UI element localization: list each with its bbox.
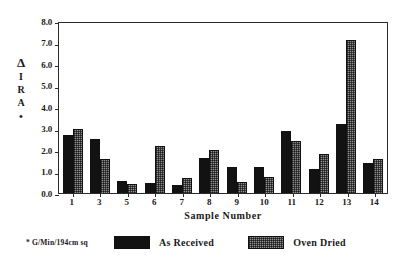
y-axis-tick-mark xyxy=(55,109,59,110)
y-axis-tick-mark xyxy=(55,88,59,89)
bar-as-received xyxy=(309,169,319,193)
bar-group xyxy=(360,23,387,193)
x-axis-tick-label: 12 xyxy=(306,197,334,209)
bar-oven-dried xyxy=(264,177,274,193)
x-axis-tick-label: 11 xyxy=(278,197,306,209)
y-axis-tick-label: 2.0 xyxy=(41,147,52,156)
bar-as-received xyxy=(199,158,209,193)
plot-area xyxy=(58,22,388,194)
y-axis-tick-labels: 8.07.06.05.04.03.02.01.00.0 xyxy=(26,0,52,265)
y-axis-title-char-i: I xyxy=(19,70,23,83)
y-axis-tick-mark xyxy=(55,131,59,132)
bar-as-received xyxy=(363,163,373,193)
bar-oven-dried xyxy=(346,40,356,193)
bar-oven-dried xyxy=(100,159,110,193)
bar-oven-dried xyxy=(237,182,247,193)
x-axis-tick-label: 9 xyxy=(223,197,251,209)
x-axis-tick-label: 13 xyxy=(333,197,361,209)
x-axis-tick-label: 3 xyxy=(86,197,114,209)
bar-group xyxy=(59,23,86,193)
y-axis-tick-label: 5.0 xyxy=(41,82,52,91)
y-axis-tick-mark xyxy=(55,23,59,24)
x-axis-tick-label: 10 xyxy=(251,197,279,209)
bar-oven-dried xyxy=(291,141,301,193)
y-axis-title-char-r: R xyxy=(17,83,24,96)
bar-as-received xyxy=(172,185,182,193)
y-axis-title-char-asterisk: • xyxy=(19,109,23,123)
x-axis-tick-label: 8 xyxy=(196,197,224,209)
x-axis-tick-label: 1 xyxy=(58,197,86,209)
bar-as-received xyxy=(336,124,346,193)
x-axis-tick-label: 6 xyxy=(141,197,169,209)
bar-oven-dried xyxy=(182,178,192,193)
bar-group xyxy=(332,23,359,193)
bar-oven-dried xyxy=(73,129,83,194)
bar-groups xyxy=(59,23,387,193)
x-axis-title: Sample Number xyxy=(58,210,388,221)
bar-oven-dried xyxy=(319,154,329,193)
x-axis-tick-label: 7 xyxy=(168,197,196,209)
bar-as-received xyxy=(281,131,291,193)
legend-footnote: * G/Min/194cm sq xyxy=(26,238,88,247)
bar-as-received xyxy=(227,167,237,193)
y-axis-tick-label: 6.0 xyxy=(41,61,52,70)
bar-group xyxy=(114,23,141,193)
bar-group xyxy=(196,23,223,193)
bar-group xyxy=(86,23,113,193)
x-axis-tick-label: 14 xyxy=(361,197,389,209)
bar-group xyxy=(305,23,332,193)
y-axis-tick-mark xyxy=(55,174,59,175)
bar-group xyxy=(168,23,195,193)
y-axis-title-char-a: A xyxy=(17,96,24,109)
y-axis-tick-mark xyxy=(55,152,59,153)
bar-group xyxy=(223,23,250,193)
y-axis-tick-mark xyxy=(55,195,59,196)
bar-oven-dried xyxy=(155,146,165,193)
y-axis-tick-label: 4.0 xyxy=(41,104,52,113)
chart-figure: Δ I R A • 8.07.06.05.04.03.02.01.00.0 13… xyxy=(0,0,396,265)
bar-oven-dried xyxy=(209,150,219,193)
bar-group xyxy=(278,23,305,193)
legend-item-as-received: As Received xyxy=(114,236,214,249)
y-axis-tick-label: 8.0 xyxy=(41,18,52,27)
x-axis-tick-label: 5 xyxy=(113,197,141,209)
bar-as-received xyxy=(117,181,127,193)
legend-swatch-as-received xyxy=(114,236,150,249)
bar-oven-dried xyxy=(373,159,383,193)
legend-label-oven-dried: Oven Dried xyxy=(293,237,346,248)
y-axis-tick-label: 7.0 xyxy=(41,39,52,48)
bar-group xyxy=(250,23,277,193)
legend-item-oven-dried: Oven Dried xyxy=(248,236,346,249)
bar-group xyxy=(141,23,168,193)
bar-oven-dried xyxy=(127,184,137,193)
legend-swatch-oven-dried xyxy=(248,236,284,249)
y-axis-tick-label: 3.0 xyxy=(41,125,52,134)
y-axis-tick-mark xyxy=(55,66,59,67)
y-axis-title-char-delta: Δ xyxy=(17,55,25,70)
bar-as-received xyxy=(90,139,100,193)
y-axis-tick-label: 1.0 xyxy=(41,168,52,177)
legend-label-as-received: As Received xyxy=(159,237,214,248)
bar-as-received xyxy=(145,183,155,193)
x-axis-tick-labels: 13567891011121314 xyxy=(58,197,388,209)
y-axis-tick-label: 0.0 xyxy=(41,190,52,199)
chart-legend: * G/Min/194cm sq As Received Oven Dried xyxy=(26,234,386,250)
bar-as-received xyxy=(254,167,264,193)
y-axis-tick-mark xyxy=(55,45,59,46)
bar-as-received xyxy=(63,135,73,193)
